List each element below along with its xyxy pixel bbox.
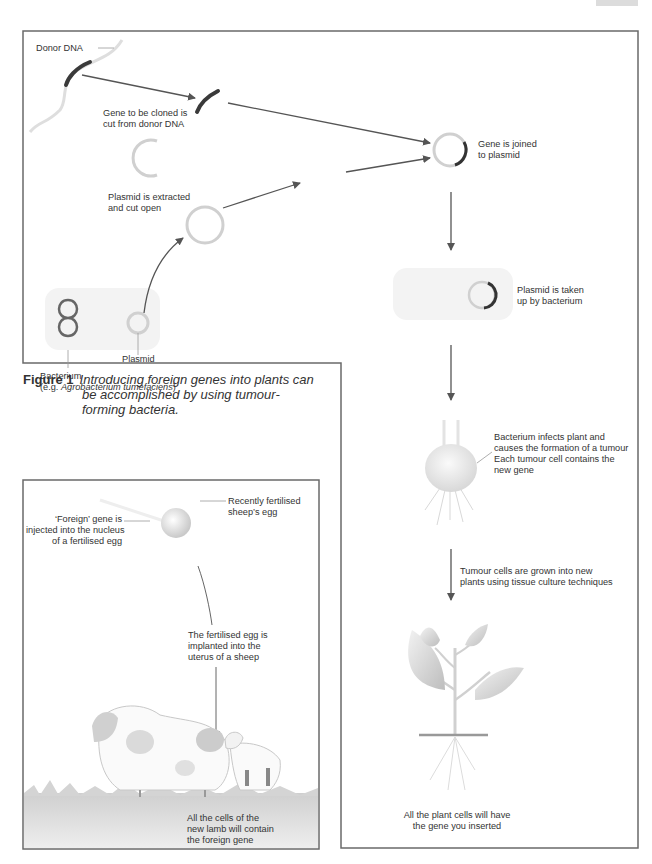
label-gene-cut-line2: cut from donor DNA — [103, 119, 187, 130]
label-plasmid-taken-line2: up by bacterium — [517, 296, 584, 307]
tumour-bulb — [425, 444, 477, 492]
label-plant-cells: All the plant cells will have the gene y… — [402, 810, 512, 832]
label-tumour-grown: Tumour cells are grown into new plants u… — [460, 566, 613, 588]
label-lamb-line3: the foreign gene — [187, 835, 274, 846]
label-plasmid: Plasmid — [122, 354, 155, 365]
label-plasmid-extracted: Plasmid is extracted and cut open — [108, 192, 190, 214]
sheep-illustration — [92, 706, 229, 797]
plant-illustration — [408, 624, 524, 790]
label-gene-joined-line2: to plasmid — [478, 150, 537, 161]
fertilised-egg — [161, 508, 191, 538]
tumour-roots — [425, 488, 473, 525]
label-infects-line1: Bacterium infects plant and — [494, 432, 628, 443]
label-gene-cut-line1: Gene to be cloned is — [103, 108, 187, 119]
label-infects-line4: new gene — [494, 465, 628, 476]
label-foreign-line1: ‘Foreign’ gene is — [26, 514, 122, 525]
figure-caption: Figure 1Introducing foreign genes into p… — [23, 372, 323, 417]
label-recently-fertilised: Recently fertilised sheep’s egg — [228, 496, 301, 518]
label-tumour-grown-line2: plants using tissue culture techniques — [460, 577, 613, 588]
label-bacterium-infects: Bacterium infects plant and causes the f… — [494, 432, 628, 476]
plasmid-open-ring — [133, 140, 157, 176]
plasmid-joined-gene — [455, 142, 466, 165]
label-implanted-line3: uterus of a sheep — [188, 652, 268, 663]
caption-line-3: forming bacteria. — [82, 402, 179, 417]
label-lamb-line2: new lamb will contain — [187, 824, 274, 835]
label-foreign-line2: injected into the nucleus — [26, 525, 122, 536]
label-gene-joined: Gene is joined to plasmid — [478, 139, 537, 161]
label-plasmid-taken-line1: Plasmid is taken — [517, 285, 584, 296]
label-plasmid-extracted-line2: and cut open — [108, 203, 190, 214]
grass — [24, 793, 318, 848]
donor-dna-gene-segment — [66, 62, 90, 85]
label-infects-line2: causes the formation of a tumour — [494, 443, 628, 454]
label-gene-joined-line1: Gene is joined — [478, 139, 537, 150]
figure-number: Figure 1 — [23, 372, 74, 387]
label-plant-cells-line1: All the plant cells will have — [402, 810, 512, 821]
label-plasmid-taken: Plasmid is taken up by bacterium — [517, 285, 584, 307]
lamb-illustration — [225, 732, 280, 790]
plasmid-extracted-ring — [187, 207, 223, 243]
label-donor-dna: Donor DNA — [36, 43, 83, 54]
label-foreign-gene: ‘Foreign’ gene is injected into the nucl… — [26, 514, 122, 547]
label-lamb-line1: All the cells of the — [187, 813, 274, 824]
label-foreign-line3: of a fertilised egg — [26, 536, 122, 547]
label-egg-line1: Recently fertilised — [228, 496, 301, 507]
label-lamb-cells: All the cells of the new lamb will conta… — [187, 813, 274, 846]
label-plant-cells-line2: the gene you inserted — [402, 821, 512, 832]
caption-line-1: Introducing foreign genes into plants ca… — [80, 372, 314, 387]
label-plasmid-extracted-line1: Plasmid is extracted — [108, 192, 190, 203]
label-egg-line2: sheep’s egg — [228, 507, 301, 518]
label-implanted-line1: The fertilised egg is — [188, 630, 268, 641]
label-gene-cut: Gene to be cloned is cut from donor DNA — [103, 108, 187, 130]
label-infects-line3: Each tumour cell contains the — [494, 454, 628, 465]
label-implanted-line2: implanted into the — [188, 641, 268, 652]
caption-line-2: be accomplished by using tumour- — [82, 387, 280, 402]
label-egg-implanted: The fertilised egg is implanted into the… — [188, 630, 268, 663]
cut-gene-segment — [197, 91, 218, 112]
label-tumour-grown-line1: Tumour cells are grown into new — [460, 566, 613, 577]
